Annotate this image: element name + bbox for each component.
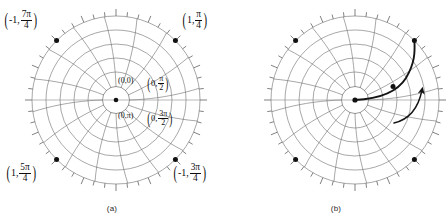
grid-tick-minor bbox=[39, 142, 43, 144]
grid-tick-minor bbox=[158, 173, 160, 177]
grid-tick-major bbox=[81, 178, 84, 184]
grid-tick-minor bbox=[31, 122, 35, 123]
grid-tick-minor bbox=[366, 183, 367, 187]
grid-spoke bbox=[367, 105, 436, 121]
grid-tick-minor bbox=[28, 111, 32, 112]
label-point-top-left: ( -1, 7π 4 ) bbox=[3, 10, 38, 30]
fraction-numerator: 5π bbox=[19, 163, 30, 174]
grid-tick-major bbox=[148, 178, 151, 184]
paren-close: ) bbox=[170, 112, 173, 126]
fraction-numerator: 3π bbox=[190, 163, 201, 174]
grid-tick-minor bbox=[62, 167, 65, 171]
grid-tick-minor bbox=[267, 111, 271, 112]
grid-tick-minor bbox=[438, 111, 442, 112]
label-theta-fraction: 7π 4 bbox=[21, 10, 32, 30]
point-top-right-a bbox=[173, 38, 178, 43]
grid-tick-minor bbox=[189, 56, 193, 58]
paren-close: ) bbox=[203, 165, 207, 181]
grid-tick-minor bbox=[428, 142, 432, 144]
grid-tick-major bbox=[148, 16, 151, 22]
grid-tick-minor bbox=[422, 151, 426, 154]
grid-tick-minor bbox=[39, 56, 43, 58]
grid-tick-minor bbox=[438, 88, 442, 89]
fraction-denominator: 4 bbox=[22, 174, 29, 184]
grid-spoke bbox=[288, 49, 346, 90]
grid-tick-major bbox=[320, 16, 323, 22]
grid-tick-minor bbox=[138, 181, 139, 185]
grid-tick-minor bbox=[189, 142, 193, 144]
grid-tick-minor bbox=[301, 30, 304, 34]
panel-a-caption: (a) bbox=[0, 204, 224, 213]
grid-tick-minor bbox=[72, 23, 74, 27]
panel-a: ( -1, 7π 4 ) ( 1, π 4 ) ( bbox=[0, 0, 224, 214]
point-origin-a bbox=[114, 98, 119, 103]
grid-tick-minor bbox=[158, 23, 160, 27]
grid-tick-minor bbox=[104, 12, 105, 16]
grid-spoke bbox=[355, 113, 367, 183]
grid-tick-minor bbox=[270, 77, 274, 78]
point-top-right-b bbox=[412, 38, 417, 43]
panel-b-caption: (b) bbox=[224, 204, 448, 213]
label-point-bottom-left: ( 1, 5π 4 ) bbox=[5, 163, 37, 183]
grid-spoke bbox=[49, 49, 107, 90]
grid-tick-minor bbox=[422, 46, 426, 49]
grid-tick-major bbox=[32, 132, 38, 135]
grid-spoke bbox=[272, 100, 342, 112]
label-theta-fraction: 3π 4 bbox=[190, 163, 201, 183]
point-top-left-a bbox=[54, 38, 59, 43]
label-center-lower-left-text: (0,π) bbox=[118, 112, 133, 120]
paren-close: ) bbox=[32, 165, 36, 181]
grid-tick-minor bbox=[28, 88, 32, 89]
grid-tick-minor bbox=[270, 122, 274, 123]
grid-tick-minor bbox=[31, 77, 35, 78]
grid-tick-minor bbox=[278, 142, 282, 144]
fraction-denominator: 4 bbox=[195, 21, 202, 31]
grid-tick-minor bbox=[183, 46, 187, 49]
grid-tick-minor bbox=[72, 173, 74, 177]
grid-tick-minor bbox=[332, 181, 333, 185]
label-theta-fraction: π 2 bbox=[158, 75, 164, 92]
fraction-numerator: π bbox=[195, 10, 202, 21]
grid-tick-minor bbox=[127, 183, 128, 187]
fraction-denominator: 4 bbox=[23, 21, 30, 31]
grid-tick-major bbox=[271, 132, 277, 135]
grid-tick-major bbox=[194, 132, 200, 135]
grid-tick-minor bbox=[397, 23, 399, 27]
grid-spoke bbox=[364, 109, 422, 150]
grid-spoke bbox=[274, 79, 343, 95]
grid-tick-minor bbox=[183, 151, 187, 154]
paren-open: ( bbox=[147, 77, 150, 91]
grid-tick-major bbox=[433, 65, 439, 68]
grid-spoke bbox=[360, 19, 376, 88]
fraction-numerator: 7π bbox=[21, 10, 32, 21]
grid-spoke bbox=[95, 112, 111, 181]
grid-tick-minor bbox=[62, 30, 65, 34]
paren-close: ) bbox=[204, 12, 208, 28]
grid-tick-major bbox=[32, 65, 38, 68]
grid-tick-minor bbox=[311, 23, 313, 27]
grid-tick-minor bbox=[197, 77, 201, 78]
grid-tick-minor bbox=[406, 30, 409, 34]
paren-open: ( bbox=[4, 12, 8, 28]
grid-tick-minor bbox=[278, 56, 282, 58]
grid-spoke bbox=[368, 88, 438, 100]
label-center-origin-text: (0,0) bbox=[118, 77, 133, 85]
paren-open: ( bbox=[147, 112, 150, 126]
grid-tick-minor bbox=[311, 173, 313, 177]
grid-tick-minor bbox=[199, 111, 203, 112]
label-center-lower-right: ( 0, 3π 2 ) bbox=[146, 110, 173, 127]
grid-tick-minor bbox=[406, 167, 409, 171]
grid-tick-minor bbox=[436, 122, 440, 123]
grid-tick-minor bbox=[199, 88, 203, 89]
label-theta-fraction: 3π 2 bbox=[158, 110, 168, 127]
point-bottom-right-b bbox=[412, 157, 417, 162]
grid-spoke bbox=[33, 100, 103, 112]
paren-open: ( bbox=[182, 12, 186, 28]
label-theta-fraction: π 4 bbox=[195, 10, 202, 30]
label-center-upper-right: ( 0, π 2 ) bbox=[146, 75, 169, 92]
grid-tick-minor bbox=[301, 167, 304, 171]
grid-tick-minor bbox=[197, 122, 201, 123]
label-r-value: -1 bbox=[178, 168, 186, 178]
grid-spoke bbox=[35, 79, 104, 95]
grid-spoke bbox=[304, 109, 345, 167]
